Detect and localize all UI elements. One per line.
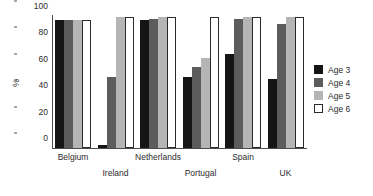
category-label-ireland: Ireland [103, 168, 129, 178]
y-tick-mark [14, 80, 17, 81]
bar-set [55, 16, 91, 148]
y-tick-0: 0 [18, 133, 53, 143]
bar-set [140, 16, 176, 148]
bar-set [183, 16, 219, 148]
bar-portugal-age-3 [183, 77, 192, 148]
legend-item-age-6[interactable]: Age 6 [314, 102, 350, 115]
bar-netherlands-age-4 [149, 19, 158, 148]
legend-swatch-icon [314, 78, 323, 87]
bar-uk-age-6 [295, 17, 304, 148]
y-tick-40: 40 [18, 80, 53, 90]
category-label-portugal: Portugal [185, 168, 217, 178]
legend-item-age-4[interactable]: Age 4 [314, 76, 350, 89]
y-tick-mark [14, 53, 17, 54]
category-label-belgium: Belgium [58, 152, 89, 162]
bar-ireland-age-3 [98, 145, 107, 148]
bar-ireland-age-4 [107, 77, 116, 148]
bar-set [98, 16, 134, 148]
category-label-uk: UK [280, 168, 292, 178]
bar-portugal-age-6 [210, 17, 219, 148]
legend-label: Age 3 [328, 65, 350, 75]
bar-belgium-age-3 [55, 20, 64, 148]
bar-spain-age-3 [225, 54, 234, 148]
legend-item-age-5[interactable]: Age 5 [314, 89, 350, 102]
bar-netherlands-age-5 [158, 17, 167, 148]
bar-group-spain [225, 16, 261, 148]
legend-label: Age 4 [328, 78, 350, 88]
bar-ireland-age-6 [125, 17, 134, 148]
legend-swatch-icon [314, 91, 323, 100]
category-label-spain: Spain [232, 152, 254, 162]
bar-uk-age-3 [268, 79, 277, 148]
y-tick-20: 20 [18, 107, 53, 117]
y-tick-mark [14, 106, 17, 107]
bar-spain-age-5 [243, 17, 252, 148]
bar-group-ireland [98, 16, 134, 148]
bar-chart-figure: % 0 20 40 60 80 100 BelgiumIrelandNether… [0, 0, 373, 196]
y-tick-mark [14, 133, 17, 134]
bar-group-belgium [55, 16, 91, 148]
bar-uk-age-5 [286, 17, 295, 148]
legend-swatch-icon [314, 65, 323, 74]
bar-portugal-age-4 [192, 67, 201, 148]
bar-portugal-age-5 [201, 58, 210, 148]
bar-set [268, 16, 304, 148]
bar-group-netherlands [140, 16, 176, 148]
plot-area: 0 20 40 60 80 100 [53, 16, 305, 148]
bar-belgium-age-6 [82, 20, 91, 148]
y-tick-mark [14, 27, 17, 28]
bar-group-portugal [183, 16, 219, 148]
y-tick-mark [14, 1, 17, 2]
bar-netherlands-age-3 [140, 20, 149, 148]
bar-netherlands-age-6 [167, 17, 176, 148]
y-tick-100: 100 [18, 1, 53, 11]
legend-label: Age 5 [328, 91, 350, 101]
bar-belgium-age-5 [73, 20, 82, 148]
y-tick-80: 80 [18, 27, 53, 37]
bar-spain-age-4 [234, 19, 243, 148]
x-axis-line [52, 148, 307, 149]
legend-swatch-icon [314, 104, 323, 113]
legend-label: Age 6 [328, 104, 350, 114]
y-tick-60: 60 [18, 54, 53, 64]
bar-belgium-age-4 [64, 20, 73, 148]
bar-group-uk [268, 16, 304, 148]
bar-spain-age-6 [252, 17, 261, 148]
bar-set [225, 16, 261, 148]
bar-uk-age-4 [277, 24, 286, 148]
category-label-netherlands: Netherlands [135, 152, 181, 162]
chart-legend: Age 3Age 4Age 5Age 6 [314, 63, 350, 115]
bar-ireland-age-5 [116, 17, 125, 148]
legend-item-age-3[interactable]: Age 3 [314, 63, 350, 76]
